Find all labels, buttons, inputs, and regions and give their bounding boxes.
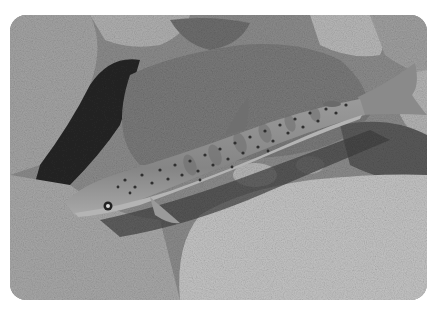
trout-photo — [10, 15, 427, 300]
photo-frame — [10, 15, 427, 300]
